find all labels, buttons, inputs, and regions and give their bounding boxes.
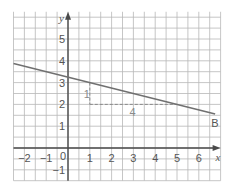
x-axis-label: x: [215, 151, 221, 163]
y-tick-label: −1: [52, 164, 65, 176]
x-tick-label: 1: [87, 152, 93, 164]
coordinate-plane: −2−1123456−112345 x y 0 1 4 B: [0, 0, 226, 193]
origin-label: 0: [60, 150, 66, 162]
x-tick-label: 2: [109, 152, 115, 164]
y-tick-label: 1: [59, 120, 65, 132]
y-axis-label: y: [58, 12, 64, 24]
run-label: 4: [129, 106, 135, 118]
plotted-line: [14, 64, 216, 114]
y-tick-label: 2: [59, 98, 65, 110]
y-tick-label: 4: [59, 55, 65, 67]
rise-label: 1: [84, 88, 90, 100]
x-tick-label: 5: [174, 152, 180, 164]
x-tick-label: 3: [130, 152, 136, 164]
x-tick-label: −2: [18, 152, 31, 164]
y-axis-arrow-icon: [65, 12, 71, 20]
x-tick-label: 4: [152, 152, 158, 164]
point-b-label: B: [211, 117, 218, 129]
y-tick-label: 3: [59, 77, 65, 89]
y-tick-label: 5: [59, 33, 65, 45]
x-tick-label: −1: [40, 152, 53, 164]
x-tick-label: 6: [196, 152, 202, 164]
